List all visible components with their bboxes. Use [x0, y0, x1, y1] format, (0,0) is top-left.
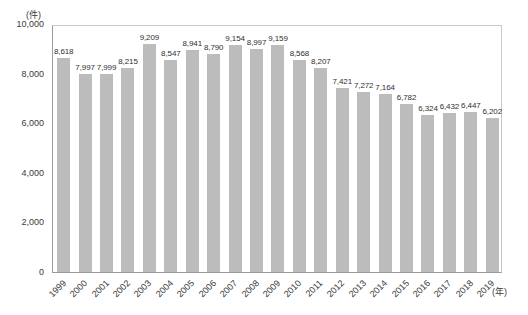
bar-value-label: 7,164 [375, 83, 395, 92]
bar [486, 118, 499, 272]
x-axis-tick-label: 2015 [389, 278, 410, 299]
bar [79, 74, 92, 272]
bar-slot: 8,997 [246, 26, 267, 272]
bar-value-label: 6,202 [483, 107, 503, 116]
bar-slot: 8,568 [289, 26, 310, 272]
bar-value-label: 8,568 [290, 49, 310, 58]
x-axis-unit-label: (年) [492, 285, 507, 298]
bar-value-label: 6,432 [440, 102, 460, 111]
plot-area: 8,6187,9977,9998,2159,2098,5478,9418,790… [52, 25, 502, 273]
bar-value-label: 8,547 [161, 49, 181, 58]
bar [421, 115, 434, 272]
bar-slot: 6,202 [482, 26, 503, 272]
y-axis-tick-label: 2,000 [21, 217, 44, 227]
bar [207, 54, 220, 272]
bar-slot: 9,209 [139, 26, 160, 272]
bar-value-label: 7,997 [75, 63, 95, 72]
x-axis-tick-label: 2004 [154, 278, 175, 299]
chart-screenshot: (件) (年) 10,0008,0006,0004,0002,0000 8,61… [0, 0, 528, 315]
bar-value-label: 9,154 [225, 34, 245, 43]
x-axis-tick-label: 2009 [261, 278, 282, 299]
y-axis-tick-label: 0 [39, 267, 44, 277]
x-axis-tick-label: 2017 [432, 278, 453, 299]
x-axis-tick-label: 2014 [368, 278, 389, 299]
bar-slot: 8,547 [160, 26, 181, 272]
bar-value-label: 8,997 [247, 38, 267, 47]
x-axis-tick-label: 2010 [282, 278, 303, 299]
x-axis-tick-label: 2005 [175, 278, 196, 299]
bar [164, 60, 177, 272]
bar-value-label: 9,159 [268, 34, 288, 43]
x-axis-tick-label: 2012 [325, 278, 346, 299]
bar [336, 88, 349, 272]
x-axis-tick-label: 2011 [304, 278, 325, 299]
bar-value-label: 7,421 [333, 77, 353, 86]
bar-value-label: 8,941 [183, 39, 203, 48]
bar [143, 44, 156, 272]
bar-slot: 7,997 [74, 26, 95, 272]
x-axis-tick-label: 2003 [132, 278, 153, 299]
bar-slot: 7,421 [332, 26, 353, 272]
x-axis-tick-label: 2016 [411, 278, 432, 299]
bar [357, 92, 370, 272]
bar [186, 50, 199, 272]
bar [271, 45, 284, 272]
bar [293, 60, 306, 272]
bar [57, 58, 70, 272]
bar-slot: 6,782 [396, 26, 417, 272]
bar-slot: 8,215 [117, 26, 138, 272]
bar-slot: 8,790 [203, 26, 224, 272]
x-axis-tick-label: 2002 [111, 278, 132, 299]
bar [443, 113, 456, 273]
bar-value-label: 7,272 [354, 81, 374, 90]
y-axis-tick-label: 8,000 [21, 69, 44, 79]
x-axis-tick-label: 2001 [89, 278, 110, 299]
bar-slot: 9,154 [224, 26, 245, 272]
bar-slot: 7,164 [374, 26, 395, 272]
bar [464, 112, 477, 272]
y-axis-tick-label: 4,000 [21, 168, 44, 178]
x-axis-tick-label: 2008 [239, 278, 260, 299]
bar-slot: 7,999 [96, 26, 117, 272]
bar [400, 104, 413, 272]
x-axis-tick-label: 2013 [347, 278, 368, 299]
bar-slot: 8,618 [53, 26, 74, 272]
bar-slot: 6,447 [460, 26, 481, 272]
bar-slot: 7,272 [353, 26, 374, 272]
bar [250, 49, 263, 272]
x-axis-tick-label: 2018 [454, 278, 475, 299]
bar-slot: 9,159 [267, 26, 288, 272]
bar-value-label: 8,207 [311, 57, 331, 66]
bar-value-label: 6,324 [418, 104, 438, 113]
x-axis-tick-label: 1999 [47, 278, 68, 299]
bar-value-label: 6,782 [397, 93, 417, 102]
bar [314, 68, 327, 272]
bar [121, 68, 134, 272]
y-axis-tick-label: 6,000 [21, 118, 44, 128]
bar [100, 74, 113, 272]
bar-slot: 8,941 [182, 26, 203, 272]
bar-value-label: 8,618 [54, 47, 74, 56]
x-axis-tick-label: 2007 [218, 278, 239, 299]
bar-value-label: 8,790 [204, 43, 224, 52]
x-axis-tick-label: 2006 [197, 278, 218, 299]
bar-value-label: 9,209 [140, 33, 160, 42]
x-axis-tick-label: 2000 [68, 278, 89, 299]
y-axis-tick-label: 10,000 [16, 19, 44, 29]
bar-value-label: 7,999 [97, 63, 117, 72]
bar [229, 45, 242, 272]
bar-value-label: 6,447 [461, 101, 481, 110]
bar-slot: 8,207 [310, 26, 331, 272]
bar-slot: 6,432 [439, 26, 460, 272]
bar-slot: 6,324 [417, 26, 438, 272]
bar [379, 94, 392, 272]
bar-value-label: 8,215 [118, 57, 138, 66]
